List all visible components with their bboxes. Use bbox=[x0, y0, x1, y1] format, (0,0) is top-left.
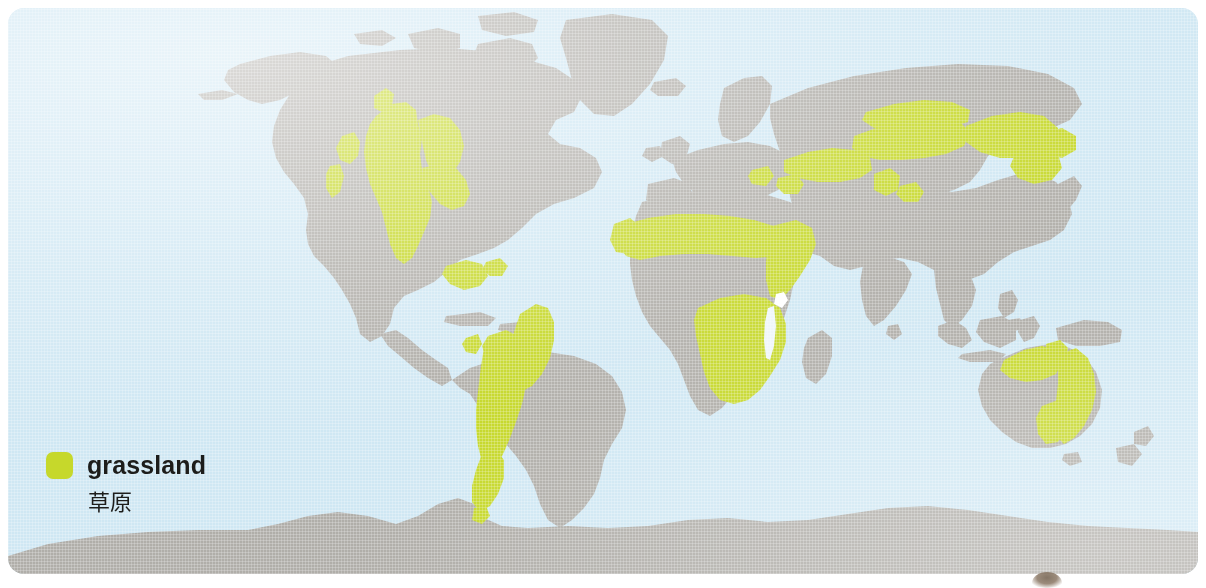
land-southeast-asia bbox=[934, 266, 976, 328]
land-india bbox=[860, 256, 912, 326]
grassland-patagonia bbox=[472, 450, 504, 512]
land-new-zealand-north bbox=[1134, 426, 1154, 446]
legend-label-chinese: 草原 bbox=[88, 492, 132, 514]
land-sumatra bbox=[938, 320, 972, 348]
grassland-east-africa bbox=[766, 220, 816, 300]
land-scandinavia bbox=[718, 76, 772, 142]
legend-label-english: grassland bbox=[87, 453, 206, 478]
grassland-color-swatch-icon bbox=[46, 452, 73, 479]
grassland-altiplano bbox=[462, 334, 482, 354]
land-arctic-islands-small bbox=[354, 30, 396, 46]
world-map-card: grassland 草原 bbox=[8, 8, 1198, 574]
land-tasmania bbox=[1062, 452, 1082, 466]
land-sulawesi bbox=[1018, 316, 1040, 342]
land-new-guinea bbox=[1056, 320, 1122, 346]
land-borneo bbox=[976, 316, 1016, 348]
land-madagascar bbox=[802, 330, 832, 384]
scan-smudge-artifact bbox=[1032, 572, 1062, 588]
land-philippines bbox=[998, 290, 1018, 318]
land-ellesmere bbox=[478, 12, 538, 36]
land-ireland bbox=[642, 146, 664, 162]
legend-row-grassland: grassland bbox=[46, 452, 206, 479]
map-legend: grassland 草原 bbox=[46, 452, 206, 514]
land-central-america bbox=[380, 330, 452, 386]
land-cuba bbox=[444, 312, 496, 326]
land-iceland bbox=[650, 78, 686, 96]
land-sri-lanka bbox=[886, 324, 902, 340]
land-new-zealand-south bbox=[1116, 444, 1142, 466]
land-aleutians bbox=[198, 90, 238, 100]
